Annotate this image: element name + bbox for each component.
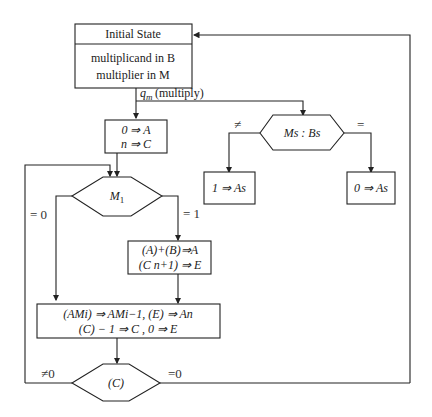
initial-state-line1: multiplicand in B [91, 51, 175, 65]
add-box: (A)+(B)⇒A (C n+1) ⇒ E [128, 241, 211, 274]
c-ne-label: ≠0 [41, 366, 55, 381]
initial-state-line2: multiplier in M [96, 68, 170, 82]
c-eq-label: =0 [168, 366, 182, 381]
edge-multiply-text: (multiply) [155, 86, 204, 100]
return-loop-line [194, 35, 410, 383]
shift-line2: (C) − 1 ⇒ C , 0 ⇒ E [79, 322, 178, 336]
sign-decision-label: Ms : Bs [283, 126, 321, 140]
sign-ne-label: ≠ [234, 117, 241, 132]
init-line1: 0 ⇒ A [121, 123, 151, 137]
init-box: 0 ⇒ A n ⇒ C [105, 120, 167, 153]
m1-zero-line [56, 196, 72, 300]
add-line1: (A)+(B)⇒A [142, 243, 199, 257]
initial-state-title: Initial State [105, 27, 161, 41]
initial-state-box: Initial State multiplicand in B multipli… [75, 24, 192, 88]
multiplication-flowchart: Initial State multiplicand in B multipli… [0, 0, 432, 417]
multiply-branch-line [136, 101, 303, 115]
init-line2: n ⇒ C [121, 137, 152, 151]
sign-eq-line [344, 133, 371, 172]
add-line2: (C n+1) ⇒ E [139, 258, 202, 272]
sign-eq-box-text: 0 ⇒ As [354, 181, 388, 195]
m1-one-label: = 1 [183, 206, 200, 221]
sign-ne-line [229, 133, 260, 172]
sign-ne-box-text: 1 ⇒ As [212, 181, 246, 195]
m1-zero-label: = 0 [30, 207, 47, 222]
shift-box: (AMi) ⇒ AMi−1, (E) ⇒ An (C) − 1 ⇒ C , 0 … [37, 304, 220, 338]
c-decision: (C) [72, 364, 160, 401]
c-label: (C) [108, 376, 124, 390]
m1-decision: M1 [72, 177, 162, 216]
sign-eq-label: = [357, 117, 364, 132]
shift-line1: (AMi) ⇒ AMi−1, (E) ⇒ An [63, 307, 193, 321]
sign-decision: Ms : Bs [260, 115, 344, 150]
m1-one-line [162, 196, 178, 240]
